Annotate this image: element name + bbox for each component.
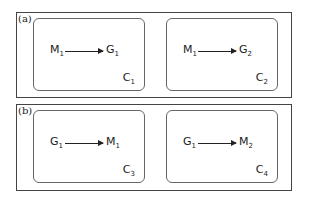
arrow-icon <box>198 51 236 52</box>
panel-a: (a) M1 G1 C1 M1 G2 C2 <box>16 12 292 98</box>
relation: G1 M1 <box>34 135 144 153</box>
target-node: G1 <box>106 43 119 58</box>
target-node: G2 <box>239 43 252 58</box>
relation: M1 G2 <box>167 43 277 61</box>
context-label: C2 <box>256 71 268 86</box>
source-node: M1 <box>183 43 197 58</box>
source-node: G1 <box>50 135 63 150</box>
arrow-icon <box>65 51 103 52</box>
target-node: M1 <box>106 135 120 150</box>
source-node: G1 <box>183 135 196 150</box>
relation: M1 G1 <box>34 43 144 61</box>
arrow-icon <box>65 143 103 144</box>
arrow-icon <box>198 143 236 144</box>
context-box-c3: G1 M1 C3 <box>33 110 145 183</box>
context-label: C1 <box>123 71 135 86</box>
target-node: M2 <box>239 135 253 150</box>
context-label: C4 <box>256 163 268 178</box>
panel-label-b: (b) <box>18 105 32 116</box>
context-label: C3 <box>123 163 135 178</box>
context-box-c2: M1 G2 C2 <box>166 18 278 91</box>
context-box-c4: G1 M2 C4 <box>166 110 278 183</box>
panel-b: (b) G1 M1 C3 G1 M2 C4 <box>16 104 292 191</box>
relation: G1 M2 <box>167 135 277 153</box>
context-box-c1: M1 G1 C1 <box>33 18 145 91</box>
source-node: M1 <box>50 43 64 58</box>
panel-label-a: (a) <box>18 13 32 24</box>
